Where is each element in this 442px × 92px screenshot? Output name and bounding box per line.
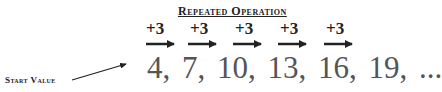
- start-pointer-arrow-icon: [72, 64, 126, 80]
- start-value-label: Start Value: [5, 75, 56, 85]
- sequence-values: 4, 7, 10, 13, 16, 19, ...: [147, 50, 442, 86]
